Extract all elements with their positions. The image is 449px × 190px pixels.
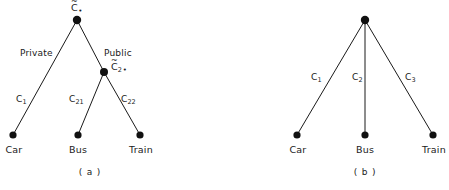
node-car-b — [293, 131, 300, 138]
node-train-a — [136, 131, 143, 138]
edge-label-c2-b: C2 — [352, 73, 363, 82]
leaf-label-car-a: Car — [6, 145, 23, 155]
node-label-public-a: ~ C 2• — [111, 62, 127, 72]
node-bus-b — [361, 131, 368, 138]
leaf-label-bus-b: Bus — [356, 145, 374, 155]
tree-a-graphics — [0, 0, 225, 190]
subscript: 22 — [127, 98, 135, 106]
tilde-mark: ~ — [71, 0, 78, 6]
edge-label-c22-a: C22 — [121, 95, 136, 104]
edge-label-private: Private — [20, 49, 53, 58]
tilde-mark: ~ — [111, 57, 118, 65]
leaf-label-train-b: Train — [422, 145, 446, 155]
leaf-label-car-b: Car — [290, 145, 307, 155]
leaf-label-train-a: Train — [129, 145, 153, 155]
edge-root-to-train — [365, 20, 433, 135]
subscript: 21 — [75, 98, 83, 106]
edge-label-c21-a: C21 — [69, 95, 84, 104]
figure-root: ~ C • ~ C 2• Private Public C1 C21 C22 C… — [0, 0, 449, 190]
caption-a: ( a ) — [79, 167, 101, 177]
tilde-c-glyph: ~ C — [71, 3, 78, 13]
tree-b-graphics — [225, 0, 449, 190]
tilde-c-glyph: ~ C — [111, 62, 118, 72]
subscript: 1 — [22, 98, 26, 106]
node-car-a — [9, 131, 16, 138]
node-root-b — [361, 16, 369, 24]
panel-a: ~ C • ~ C 2• Private Public C1 C21 C22 C… — [0, 0, 225, 190]
edge-label-c1-a: C1 — [16, 95, 27, 104]
node-public-a — [100, 68, 108, 76]
edge-root-to-car — [13, 20, 77, 135]
caption-b: ( b ) — [354, 167, 376, 177]
subscript: 1 — [317, 76, 321, 84]
subscript: 2 — [358, 76, 362, 84]
leaf-label-bus-a: Bus — [69, 145, 87, 155]
dot-mark: • — [78, 7, 82, 15]
edge-root-to-public — [77, 20, 104, 72]
node-train-b — [429, 131, 436, 138]
node-root-a — [73, 16, 81, 24]
node-bus-a — [74, 131, 81, 138]
node-label-root-a: ~ C • — [71, 3, 82, 13]
edge-label-public: Public — [104, 49, 132, 58]
subscript: 3 — [411, 76, 415, 84]
panel-b: C1 C2 C3 Car Bus Train ( b ) — [225, 0, 449, 190]
subscript: 2 — [118, 66, 122, 74]
dot-mark: • — [123, 66, 127, 74]
edge-label-c1-b: C1 — [311, 73, 322, 82]
edge-label-c3-b: C3 — [405, 73, 416, 82]
